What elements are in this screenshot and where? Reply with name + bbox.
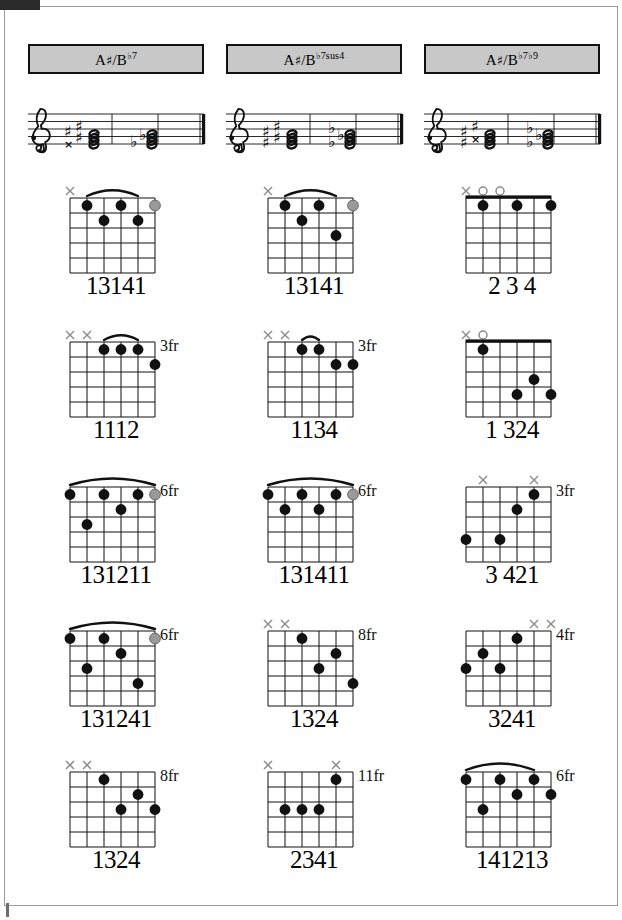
chord-diagram[interactable] xyxy=(18,184,214,276)
svg-text:♯: ♯ xyxy=(471,117,479,136)
finger-dot xyxy=(99,344,110,355)
chord-diagram[interactable]: 3fr xyxy=(216,328,412,420)
fretboard[interactable]: 6fr xyxy=(18,473,214,565)
finger-dot xyxy=(82,519,93,530)
fretboard[interactable]: 8fr xyxy=(216,617,412,709)
finger-dot xyxy=(348,678,359,689)
fret-grid xyxy=(268,487,353,562)
fretboard[interactable]: 3fr xyxy=(414,473,610,565)
fret-grid xyxy=(268,631,353,706)
fingering-numbers: 1 324 xyxy=(414,416,610,444)
chord-voicing-4[interactable]: 8fr1324 xyxy=(216,617,412,745)
mute-marker-icon xyxy=(479,476,487,484)
finger-dot xyxy=(65,633,76,644)
fretboard[interactable]: 3fr xyxy=(216,328,412,420)
finger-dot xyxy=(116,344,127,355)
svg-text:♯: ♯ xyxy=(460,122,468,141)
chord-voicing-5[interactable]: 8fr1324 xyxy=(18,758,214,886)
barre-arc xyxy=(466,764,534,771)
string-markers xyxy=(462,187,504,195)
note-cluster-sharp-spelling xyxy=(287,129,298,149)
fret-grid xyxy=(70,198,155,273)
fingering-numbers: 141213 xyxy=(414,846,610,874)
fretboard[interactable]: 11fr xyxy=(216,758,412,850)
fretboard[interactable] xyxy=(414,184,610,276)
staff-notation-block: ×♯♯♯♭♭ xyxy=(26,96,212,176)
finger-dot xyxy=(116,804,127,815)
finger-dot xyxy=(512,389,523,400)
mute-marker-icon xyxy=(462,187,470,195)
mute-marker-icon xyxy=(66,187,74,195)
chord-voicing-3[interactable]: 6fr131411 xyxy=(216,473,412,601)
chord-voicing-2[interactable]: 3fr1112 xyxy=(18,328,214,456)
note-cluster-flat-spelling xyxy=(543,129,554,149)
chord-diagram[interactable]: 6fr xyxy=(414,758,610,850)
chord-diagram[interactable]: 8fr xyxy=(18,758,214,850)
barre-arc xyxy=(104,335,138,340)
chord-voicing-1[interactable]: 13141 xyxy=(18,184,214,312)
fingering-numbers: 3 421 xyxy=(414,561,610,589)
chord-voicing-4[interactable]: 6fr131241 xyxy=(18,617,214,745)
finger-dot xyxy=(297,633,308,644)
finger-dots xyxy=(461,633,523,674)
chord-header-box[interactable]: A♯/B♭7 xyxy=(28,44,204,74)
chord-diagram[interactable]: 6fr xyxy=(18,473,214,565)
fretboard[interactable]: 6fr xyxy=(18,617,214,709)
open-string-marker-icon xyxy=(496,187,504,195)
fretboard[interactable] xyxy=(414,328,610,420)
chord-voicing-1[interactable]: 13141 xyxy=(216,184,412,312)
finger-dot xyxy=(331,230,342,241)
chord-voicing-2[interactable]: 3fr1134 xyxy=(216,328,412,456)
finger-dot xyxy=(529,374,540,385)
chord-diagram[interactable]: 6fr xyxy=(216,473,412,565)
staff-lines xyxy=(28,114,204,144)
chord-header-box[interactable]: A♯/B♭7♭9 xyxy=(424,44,600,74)
mute-marker-icon xyxy=(264,187,272,195)
chord-voicing-3[interactable]: 6fr131211 xyxy=(18,473,214,601)
fretboard[interactable]: 6fr xyxy=(414,758,610,850)
chord-title: A♯/B♭7sus4 xyxy=(284,50,345,69)
chord-diagram[interactable]: 6fr xyxy=(18,617,214,709)
mute-marker-icon xyxy=(66,761,74,769)
finger-dots xyxy=(280,774,342,815)
chord-diagram[interactable] xyxy=(414,184,610,276)
string-markers xyxy=(264,331,289,339)
finger-dot xyxy=(461,663,472,674)
chord-voicing-1[interactable]: 2 3 4 xyxy=(414,184,610,312)
chord-diagram[interactable]: 8fr xyxy=(216,617,412,709)
chord-voicing-3[interactable]: 3fr3 421 xyxy=(414,473,610,601)
mute-marker-icon xyxy=(83,331,91,339)
fingering-numbers: 131241 xyxy=(18,705,214,733)
chord-diagram[interactable]: 3fr xyxy=(18,328,214,420)
chord-diagram[interactable]: 4fr xyxy=(414,617,610,709)
optional-finger-dot xyxy=(150,200,161,211)
fretboard[interactable] xyxy=(216,184,412,276)
barre-arc xyxy=(268,479,353,486)
finger-dot xyxy=(495,534,506,545)
chord-diagram[interactable]: 3fr xyxy=(414,473,610,565)
chord-diagram[interactable] xyxy=(216,184,412,276)
optional-finger-dot xyxy=(348,200,359,211)
fretboard[interactable]: 8fr xyxy=(18,758,214,850)
fret-position-label: 3fr xyxy=(160,337,179,354)
fretboard[interactable]: 4fr xyxy=(414,617,610,709)
staff-notation-block: ♯×♯♯♭♭♭ xyxy=(422,96,608,176)
finger-dot xyxy=(546,789,557,800)
finger-dot xyxy=(348,359,359,370)
finger-dots xyxy=(99,774,161,815)
chord-diagram[interactable] xyxy=(414,328,610,420)
finger-dot xyxy=(478,344,489,355)
chord-voicing-2[interactable]: 1 324 xyxy=(414,328,610,456)
finger-dot xyxy=(512,200,523,211)
fretboard[interactable] xyxy=(18,184,214,276)
chord-voicing-5[interactable]: 11fr2341 xyxy=(216,758,412,886)
chord-voicing-4[interactable]: 4fr3241 xyxy=(414,617,610,745)
chord-diagram[interactable]: 11fr xyxy=(216,758,412,850)
fret-position-label: 6fr xyxy=(556,767,575,784)
fretboard[interactable]: 3fr xyxy=(18,328,214,420)
fretboard[interactable]: 6fr xyxy=(216,473,412,565)
finger-dot xyxy=(263,489,274,500)
finger-dot xyxy=(280,200,291,211)
chord-voicing-5[interactable]: 6fr141213 xyxy=(414,758,610,886)
chord-header-box[interactable]: A♯/B♭7sus4 xyxy=(226,44,402,74)
